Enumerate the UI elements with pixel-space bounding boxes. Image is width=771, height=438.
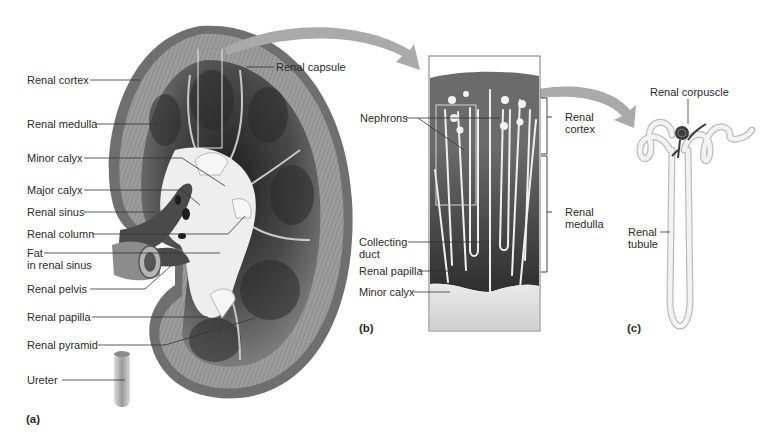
- label-renal-pyramid: Renal pyramid: [27, 339, 98, 352]
- label-ureter: Ureter: [27, 374, 58, 387]
- ureter-shape: [114, 351, 130, 407]
- label-major-calyx: Major calyx: [27, 184, 83, 197]
- label-renal-capsule: Renal capsule: [276, 61, 346, 74]
- tissue-magnification-panel: [429, 56, 540, 331]
- label-renal-papilla-b: Renal papilla: [359, 265, 423, 278]
- label-renal-tubule-l2: tubule: [628, 238, 658, 251]
- panel-letter-c: (c): [627, 322, 641, 334]
- label-nephrons: Nephrons: [360, 112, 408, 125]
- label-renal-column: Renal column: [27, 228, 94, 241]
- label-renal-cortex-b-l2: cortex: [565, 123, 595, 136]
- label-renal-medulla: Renal medulla: [27, 118, 97, 131]
- region-brackets: [541, 98, 552, 272]
- label-renal-medulla-b-l2: medulla: [565, 218, 604, 231]
- single-nephron-illustration: [640, 122, 752, 326]
- glomerulus-shape: [675, 126, 689, 140]
- panel-letter-b: (b): [359, 322, 374, 334]
- panel-letter-a: (a): [26, 413, 40, 425]
- label-renal-pelvis: Renal pelvis: [27, 283, 87, 296]
- kidney-illustration: [109, 26, 353, 407]
- label-renal-sinus: Renal sinus: [27, 206, 84, 219]
- label-minor-calyx-b: Minor calyx: [359, 286, 415, 299]
- label-fat-line2: in renal sinus: [27, 259, 92, 272]
- label-renal-papilla: Renal papilla: [27, 311, 91, 324]
- renal-pelvis-tube: [112, 241, 161, 280]
- label-collecting-duct-l2: duct: [359, 248, 380, 261]
- renal-anatomy-figure: [0, 0, 771, 438]
- label-minor-calyx: Minor calyx: [27, 152, 83, 165]
- label-renal-corpuscle: Renal corpuscle: [650, 86, 729, 99]
- label-renal-cortex: Renal cortex: [27, 74, 89, 87]
